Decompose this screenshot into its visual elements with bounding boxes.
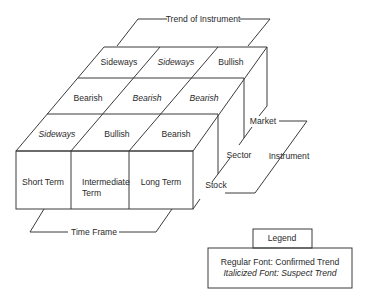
- time-frame-intermediate-term-line2: Term: [82, 188, 101, 198]
- legend-italic-line: Italicized Font: Suspect Trend: [223, 268, 336, 278]
- legend-title: Legend: [268, 233, 297, 243]
- cube-edge: [259, 106, 267, 116]
- time-frame-label: Time Frame: [71, 227, 117, 237]
- cell-market-intermediate: Sideways: [158, 57, 195, 67]
- cell-sector-intermediate: Bearish: [132, 93, 161, 103]
- cell-market-long: Bullish: [218, 57, 244, 67]
- time-frame-intermediate-term: Intermediate: [82, 177, 130, 187]
- time-frame-long-term: Long Term: [141, 177, 181, 187]
- instrument-label: Instrument: [269, 151, 310, 161]
- legend-regular-line: Regular Font: Confirmed Trend: [221, 257, 340, 267]
- level-stock-label: Stock: [205, 180, 227, 190]
- cube-edge: [239, 138, 244, 145]
- bracket-line: [117, 19, 167, 46]
- cell-stock-long: Bearish: [161, 129, 190, 139]
- cell-market-short: Sideways: [101, 57, 138, 67]
- level-sector-label: Sector: [227, 150, 252, 160]
- bracket-line: [240, 19, 270, 46]
- cell-sector-long: Bearish: [189, 93, 218, 103]
- cell-sector-short: Bearish: [73, 93, 102, 103]
- level-market-label: Market: [250, 116, 277, 126]
- cube-edge: [244, 127, 252, 138]
- cube-edge: [193, 199, 200, 209]
- cell-stock-short: Sideways: [39, 129, 76, 139]
- cell-stock-intermediate: Bullish: [104, 129, 130, 139]
- trend-of-instrument-label: Trend of Instrument: [166, 14, 241, 24]
- cube-edge: [218, 158, 230, 174]
- bracket-line: [119, 209, 172, 232]
- bracket-line: [30, 209, 68, 232]
- trend-cube-diagram: Trend of Instrument Time Frame Instrumen…: [0, 0, 367, 300]
- time-frame-short-term: Short Term: [22, 177, 64, 187]
